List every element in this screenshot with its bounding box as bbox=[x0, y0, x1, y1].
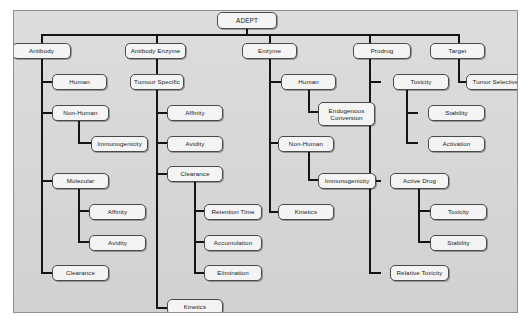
node-enzyme-non-human[interactable]: Non-Human bbox=[278, 136, 334, 152]
node-active-drug-toxicity[interactable]: Toxicity bbox=[430, 204, 487, 220]
edge-ab-clearance-spine bbox=[194, 181, 196, 274]
node-antibody-clearance[interactable]: Clearance bbox=[52, 265, 109, 281]
edge-prodrug-to-toxicity bbox=[369, 81, 381, 83]
node-ab-enzyme-elimination[interactable]: Elimination bbox=[204, 265, 262, 281]
node-ab-enzyme-retention-time[interactable]: Retention Time bbox=[204, 204, 262, 220]
edge-enzyme-human-spine bbox=[308, 89, 310, 113]
node-root-adept[interactable]: ADEPT bbox=[217, 12, 277, 29]
edge-ab-enzyme-spine bbox=[156, 59, 158, 309]
node-enzyme-kinetics[interactable]: Kinetics bbox=[278, 204, 334, 220]
node-enzyme-immunogenicity[interactable]: Immunogenicity bbox=[318, 173, 376, 189]
node-active-drug-stability[interactable]: Stability bbox=[430, 235, 487, 251]
edge-prodrug-spine bbox=[369, 59, 371, 274]
edge-main-bus bbox=[41, 34, 459, 36]
edge-bus-to-antibody-enzyme bbox=[156, 34, 158, 43]
edge-enzyme-non-human-spine bbox=[308, 150, 310, 181]
node-enzyme[interactable]: Enzyme bbox=[242, 43, 297, 59]
node-antibody-enzyme[interactable]: Antibody Enzyme bbox=[125, 43, 186, 59]
node-prodrug-stability[interactable]: Stability bbox=[428, 105, 485, 121]
node-ab-enzyme-kinetics[interactable]: Kinetics bbox=[167, 299, 223, 313]
node-target[interactable]: Target bbox=[430, 43, 485, 59]
node-antibody[interactable]: Antibody bbox=[13, 43, 71, 59]
edge-bus-to-prodrug bbox=[369, 34, 371, 43]
diagram-panel: ADEPT Antibody Human Non-Human Immunogen… bbox=[13, 10, 518, 313]
node-antibody-immunogenicity[interactable]: Immunogenicity bbox=[91, 136, 148, 152]
node-prodrug-active-drug[interactable]: Active Drug bbox=[390, 173, 449, 189]
node-ab-enzyme-avidity[interactable]: Avidity bbox=[167, 136, 223, 152]
edge-non-human-spine bbox=[78, 120, 80, 144]
node-ab-enzyme-affinity[interactable]: Affinity bbox=[167, 105, 223, 121]
edge-bus-to-antibody bbox=[41, 34, 43, 43]
node-prodrug-relative-toxicity[interactable]: Relative Toxicity bbox=[390, 265, 449, 281]
edge-target-spine bbox=[458, 59, 460, 83]
node-prodrug-activation[interactable]: Activation bbox=[428, 136, 485, 152]
node-enzyme-endogenous-conversion[interactable]: Endogenous Conversion bbox=[318, 102, 375, 126]
edge-molecular-spine bbox=[78, 189, 80, 243]
node-antibody-affinity[interactable]: Affinity bbox=[89, 204, 146, 220]
node-antibody-human[interactable]: Human bbox=[52, 74, 107, 90]
node-prodrug-toxicity[interactable]: Toxicity bbox=[393, 74, 449, 90]
edge-bus-to-target bbox=[458, 34, 460, 43]
edge-toxicity-to-stability bbox=[406, 112, 418, 114]
edge-active-drug-spine bbox=[418, 189, 420, 243]
node-target-tumor-selective[interactable]: Tumor Selective bbox=[466, 74, 518, 90]
edge-prodrug-to-relative-toxicity bbox=[369, 272, 381, 274]
node-enzyme-human[interactable]: Human bbox=[281, 74, 336, 90]
node-antibody-molecular[interactable]: Molecular bbox=[52, 173, 109, 189]
node-antibody-avidity[interactable]: Avidity bbox=[89, 235, 146, 251]
edge-non-human-to-immunogenicity bbox=[78, 142, 91, 144]
edge-bus-to-enzyme bbox=[269, 34, 271, 43]
node-prodrug[interactable]: Prodrug bbox=[353, 43, 411, 59]
node-ab-enzyme-accumulation[interactable]: Accumulation bbox=[204, 235, 262, 251]
edge-toxicity-spine bbox=[406, 89, 408, 144]
node-ab-enzyme-clearance[interactable]: Clearance bbox=[167, 166, 223, 182]
edge-antibody-spine bbox=[41, 59, 43, 274]
diagram-canvas: ADEPT Antibody Human Non-Human Immunogen… bbox=[0, 0, 532, 326]
edge-toxicity-to-activation bbox=[406, 142, 418, 144]
node-ab-enzyme-tumour-specific[interactable]: Tumour Specific bbox=[130, 74, 184, 90]
node-antibody-non-human[interactable]: Non-Human bbox=[52, 105, 109, 121]
